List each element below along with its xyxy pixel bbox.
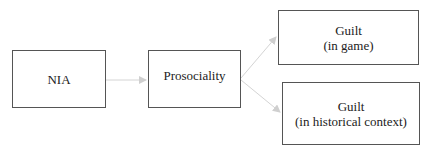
- node-guilt-historical: Guilt (in historical context): [282, 82, 420, 145]
- node-guilt-in-game: Guilt (in game): [278, 10, 419, 65]
- arrow-prosociality-to-guilt-historical: [241, 80, 280, 112]
- node-guilt-historical-title: Guilt: [338, 99, 365, 114]
- node-guilt-historical-subtitle: (in historical context): [295, 114, 407, 129]
- arrow-prosociality-to-guilt-game: [241, 37, 276, 78]
- node-nia-label: NIA: [47, 72, 70, 87]
- node-guilt-in-game-subtitle: (in game): [323, 38, 373, 53]
- node-nia: NIA: [12, 50, 106, 108]
- node-guilt-in-game-title: Guilt: [335, 23, 362, 38]
- node-prosociality-label: Prosociality: [163, 68, 225, 83]
- node-prosociality: Prosociality: [148, 50, 241, 108]
